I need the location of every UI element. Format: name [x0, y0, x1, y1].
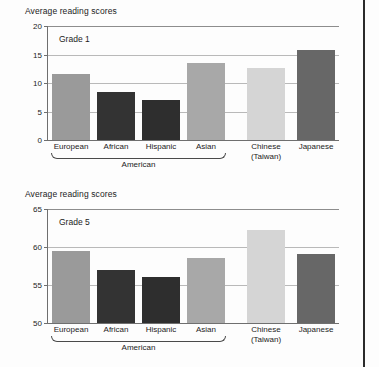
bar — [52, 74, 90, 140]
grade-annotation: Grade 5 — [59, 217, 90, 227]
x-axis-label: Chinese(Taiwan) — [251, 325, 281, 345]
y-axis-tick-label: 60 — [12, 243, 42, 252]
y-axis-tick-label: 50 — [12, 319, 42, 328]
gridline — [47, 209, 339, 210]
bar — [297, 50, 335, 140]
x-axis-label: Japanese — [299, 142, 334, 152]
bar — [187, 258, 225, 323]
bar — [187, 63, 225, 140]
x-axis-label-line-1: European — [54, 325, 89, 334]
x-axis-line — [47, 323, 339, 324]
x-axis-label-line-1: Japanese — [299, 325, 334, 334]
chart-title: Average reading scores — [25, 189, 117, 199]
x-axis-label-line-1: Chinese — [251, 142, 280, 151]
x-axis-label-line-1: Japanese — [299, 142, 334, 151]
plot-area-grade-1: Grade 1 05101520 — [47, 26, 339, 140]
x-axis-labels-grade-5: EuropeanAfricanHispanicAsianChinese(Taiw… — [47, 325, 339, 365]
x-axis-labels-grade-1: EuropeanAfricanHispanicAsianChinese(Taiw… — [47, 142, 339, 182]
chart-title: Average reading scores — [25, 6, 117, 16]
group-bracket-label: American — [122, 160, 156, 169]
x-axis-line — [47, 140, 339, 141]
group-bracket — [51, 153, 226, 159]
x-axis-label-line-1: Hispanic — [146, 325, 177, 334]
x-axis-label-line-2: (Taiwan) — [251, 152, 281, 162]
y-axis-tick-label: 10 — [12, 79, 42, 88]
x-axis-label: African — [104, 325, 129, 335]
x-axis-label: Hispanic — [146, 325, 177, 335]
y-axis-line — [47, 26, 48, 140]
bar — [97, 270, 135, 323]
y-axis-tick-label: 20 — [12, 22, 42, 31]
bar — [247, 230, 285, 323]
group-bracket-label: American — [122, 343, 156, 352]
bar — [142, 100, 180, 140]
bar — [297, 254, 335, 323]
x-axis-label: Asian — [196, 142, 216, 152]
group-bracket — [51, 336, 226, 342]
y-axis-tick-label: 55 — [12, 281, 42, 290]
x-axis-label-line-1: Asian — [196, 325, 216, 334]
x-axis-label-line-1: Chinese — [251, 325, 280, 334]
chart-panel-grade-1: Average reading scores Grade 1 05101520 … — [0, 0, 363, 183]
bar — [97, 92, 135, 140]
gridline — [47, 247, 339, 248]
plot-area-grade-5: Grade 5 50556065 — [47, 209, 339, 323]
gridline — [47, 55, 339, 56]
y-axis-tick-label: 5 — [12, 107, 42, 116]
x-axis-label: Japanese — [299, 325, 334, 335]
x-axis-label-line-1: Asian — [196, 142, 216, 151]
page-right-border — [363, 0, 365, 367]
bar — [52, 251, 90, 323]
grade-annotation: Grade 1 — [59, 34, 90, 44]
x-axis-label: Asian — [196, 325, 216, 335]
gridline — [47, 26, 339, 27]
x-axis-label: Chinese(Taiwan) — [251, 142, 281, 162]
y-axis-tick-label: 0 — [12, 136, 42, 145]
x-axis-label-line-1: European — [54, 142, 89, 151]
figure-page: Average reading scores Grade 1 05101520 … — [0, 0, 379, 367]
x-axis-label-line-1: African — [104, 325, 129, 334]
x-axis-label: European — [54, 142, 89, 152]
x-axis-label: African — [104, 142, 129, 152]
x-axis-label: Hispanic — [146, 142, 177, 152]
x-axis-label-line-1: African — [104, 142, 129, 151]
y-axis-tick-label: 15 — [12, 50, 42, 59]
y-axis-line — [47, 209, 48, 323]
bar — [247, 68, 285, 140]
bar — [142, 277, 180, 323]
x-axis-label-line-1: Hispanic — [146, 142, 177, 151]
x-axis-label: European — [54, 325, 89, 335]
y-axis-tick-label: 65 — [12, 205, 42, 214]
chart-panel-grade-5: Average reading scores Grade 5 50556065 … — [0, 183, 363, 367]
x-axis-label-line-2: (Taiwan) — [251, 335, 281, 345]
